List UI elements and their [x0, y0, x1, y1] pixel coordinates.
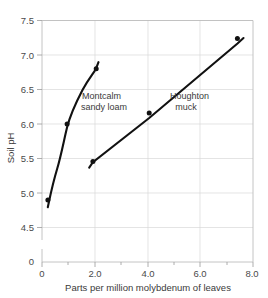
y-axis-ticks [37, 21, 42, 228]
ytick-label-6.5: 6.5 [21, 84, 34, 95]
x-axis-ticks [42, 262, 253, 267]
x-axis-title: Parts per million molybdenum of leaves [65, 282, 231, 293]
datapoint-montcalm-1 [45, 198, 50, 203]
annotation-houghton-line2: muck [175, 102, 197, 112]
chart-svg: 7.5 7.0 6.5 6.0 5.5 5.0 4.5 0 0 2.0 4.0 … [0, 0, 268, 298]
xtick-label-6.0: 6.0 [193, 268, 206, 279]
annotation-houghton: Houghton muck [170, 91, 209, 112]
annotation-montcalm-line2: sandy loam [81, 102, 127, 112]
annotation-montcalm: Montcalm sandy loam [81, 91, 127, 112]
datapoint-montcalm-3 [94, 66, 99, 71]
y-tick-labels: 7.5 7.0 6.5 6.0 5.5 5.0 4.5 0 [21, 15, 34, 267]
annotation-montcalm-line1: Montcalm [82, 91, 121, 101]
curve-montcalm [48, 62, 99, 207]
y-axis-title: Soil pH [5, 133, 16, 164]
ytick-label-0: 0 [29, 256, 34, 267]
datapoint-montcalm-2 [65, 122, 70, 127]
xtick-label-4.0: 4.0 [141, 268, 154, 279]
ytick-label-6.0: 6.0 [21, 119, 34, 130]
datapoint-houghton-1 [90, 159, 95, 164]
datapoint-houghton-3 [235, 36, 240, 41]
datapoint-houghton-2 [147, 111, 152, 116]
annotation-houghton-line1: Houghton [170, 91, 209, 101]
chart-figure: 7.5 7.0 6.5 6.0 5.5 5.0 4.5 0 0 2.0 4.0 … [0, 0, 268, 298]
x-tick-labels: 0 2.0 4.0 6.0 8.0 [39, 268, 258, 279]
ytick-label-7.0: 7.0 [21, 50, 34, 61]
ytick-label-5.5: 5.5 [21, 153, 34, 164]
xtick-label-0: 0 [39, 268, 44, 279]
xtick-label-8.0: 8.0 [245, 268, 258, 279]
ytick-label-4.5: 4.5 [21, 222, 34, 233]
series-montcalm-sandy-loam [45, 62, 98, 207]
ytick-label-5.0: 5.0 [21, 188, 34, 199]
ytick-label-7.5: 7.5 [21, 15, 34, 26]
xtick-label-2.0: 2.0 [88, 268, 101, 279]
